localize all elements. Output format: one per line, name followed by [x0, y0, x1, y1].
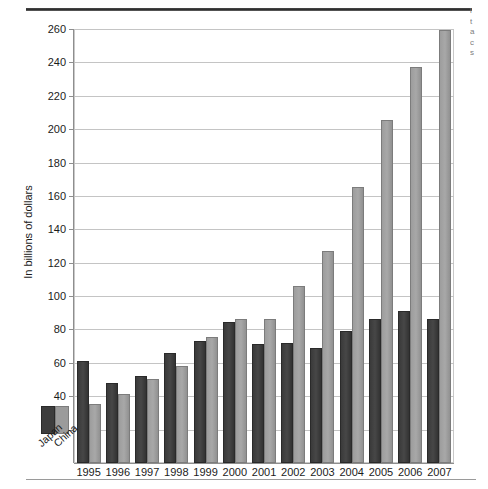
- y-tick-label-240: 240: [48, 56, 66, 68]
- bar-japan-1999[interactable]: [194, 341, 206, 463]
- bar-japan-1997[interactable]: [135, 376, 147, 463]
- y-tick-label-140: 140: [48, 223, 66, 235]
- y-tick-label-120: 120: [48, 257, 66, 269]
- bar-group-2004: [337, 29, 366, 463]
- bar-china-1996[interactable]: [118, 394, 130, 463]
- bar-china-2006[interactable]: [410, 67, 422, 463]
- y-tick-label-260: 260: [48, 23, 66, 35]
- right-margin-text-clipped: l t a c s: [470, 6, 488, 66]
- legend: Japan China: [33, 406, 93, 476]
- bar-china-2003[interactable]: [322, 251, 334, 463]
- bar-japan-1998[interactable]: [164, 353, 176, 464]
- bar-group-2007: [425, 29, 454, 463]
- top-divider-rule: [26, 8, 472, 11]
- bar-china-1998[interactable]: [176, 366, 188, 463]
- bar-china-1999[interactable]: [206, 337, 218, 463]
- bar-group-2005: [366, 29, 395, 463]
- bar-group-2003: [308, 29, 337, 463]
- bar-china-2002[interactable]: [293, 286, 305, 463]
- bar-japan-2000[interactable]: [223, 322, 235, 463]
- right-margin-line-5: s: [470, 48, 488, 59]
- bar-group-1999: [191, 29, 220, 463]
- y-tick-label-160: 160: [48, 190, 66, 202]
- bar-japan-2004[interactable]: [340, 331, 352, 463]
- right-margin-line-2: t: [470, 17, 488, 28]
- bar-china-2000[interactable]: [235, 319, 247, 463]
- bottom-divider-rule: [26, 479, 476, 480]
- chart-page: l t a c s In billions of dollars 2040608…: [0, 0, 488, 489]
- bar-japan-1996[interactable]: [106, 383, 118, 463]
- bar-group-2001: [249, 29, 278, 463]
- x-axis-line: [74, 463, 454, 464]
- bar-china-1997[interactable]: [147, 379, 159, 463]
- y-tick-label-200: 200: [48, 123, 66, 135]
- plot-area: [74, 29, 454, 463]
- bar-group-1998: [162, 29, 191, 463]
- bar-japan-2002[interactable]: [281, 343, 293, 464]
- bar-china-2007[interactable]: [439, 30, 451, 463]
- bar-group-2000: [220, 29, 249, 463]
- bar-groups: [74, 29, 454, 463]
- y-axis-title: In billions of dollars: [22, 185, 34, 279]
- bar-china-2005[interactable]: [381, 120, 393, 463]
- bar-group-1995: [74, 29, 103, 463]
- bar-group-2002: [279, 29, 308, 463]
- right-margin-line-3: a: [470, 27, 488, 38]
- bar-group-2006: [396, 29, 425, 463]
- bar-japan-2003[interactable]: [310, 348, 322, 464]
- bar-japan-2001[interactable]: [252, 344, 264, 463]
- y-tick-label-40: 40: [54, 390, 66, 402]
- y-tick-label-180: 180: [48, 157, 66, 169]
- bar-china-2004[interactable]: [352, 187, 364, 463]
- bar-japan-2006[interactable]: [398, 311, 410, 463]
- bar-japan-2007[interactable]: [427, 319, 439, 463]
- bar-group-1996: [103, 29, 132, 463]
- y-tick-label-60: 60: [54, 357, 66, 369]
- y-tick-label-80: 80: [54, 323, 66, 335]
- right-margin-line-4: c: [470, 38, 488, 49]
- y-tick-label-100: 100: [48, 290, 66, 302]
- bar-group-1997: [132, 29, 161, 463]
- bar-china-2001[interactable]: [264, 319, 276, 463]
- bar-japan-2005[interactable]: [369, 319, 381, 463]
- y-tick-label-220: 220: [48, 90, 66, 102]
- right-margin-line-1: l: [470, 6, 488, 17]
